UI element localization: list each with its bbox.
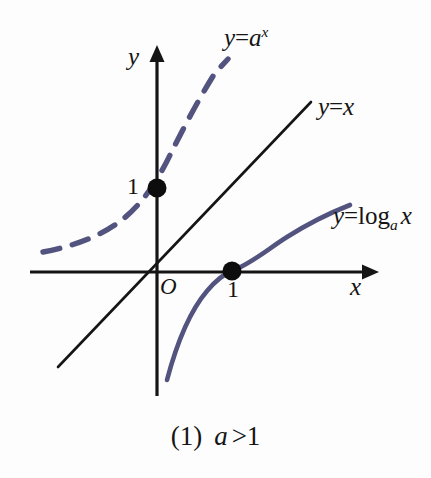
identity-line-label: y=x <box>318 94 354 119</box>
y-axis-label: y <box>128 44 139 69</box>
exponential-label-eq: = <box>235 24 249 51</box>
x-axis-label: x <box>350 274 361 299</box>
origin-label: O <box>160 275 177 298</box>
caption-variable: a <box>214 421 228 451</box>
logarithm-curve-label: y=logax <box>333 203 412 228</box>
exponential-label-base: a <box>249 24 262 51</box>
identity-label-eq: = <box>329 93 343 120</box>
logarithm-label-arg: x <box>401 202 412 229</box>
identity-label-y: y <box>318 93 329 120</box>
logarithm-label-y: y <box>333 202 344 229</box>
exponential-curve-label: y=ax <box>224 25 268 50</box>
figure-caption: (1)a>1 <box>0 421 431 452</box>
y-axis-tick-label-one: 1 <box>127 174 139 198</box>
caption-number: (1) <box>171 421 202 451</box>
logarithm-label-base: a <box>390 216 398 233</box>
caption-relation: >1 <box>232 421 261 451</box>
graph-svg <box>0 0 431 478</box>
logarithm-curve <box>167 205 350 380</box>
x-axis <box>30 265 379 280</box>
exponential-label-exponent: x <box>261 23 268 40</box>
logarithm-label-log: log <box>358 202 390 229</box>
x-axis-tick-label-one: 1 <box>227 277 239 301</box>
figure-container: y x O 1 1 y=ax y=x y=logax (1)a>1 <box>0 0 431 478</box>
y-axis-arrowhead <box>150 45 165 62</box>
point-on-y-axis <box>148 179 167 198</box>
exponential-curve <box>43 59 228 252</box>
x-axis-arrowhead <box>362 265 379 280</box>
exponential-label-y: y <box>224 24 235 51</box>
y-axis <box>150 45 165 396</box>
logarithm-label-eq: = <box>344 202 358 229</box>
identity-label-x: x <box>343 93 354 120</box>
